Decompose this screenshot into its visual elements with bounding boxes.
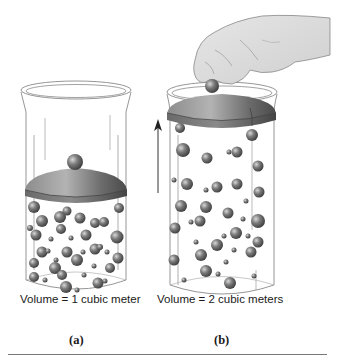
up-arrow-icon [154, 119, 162, 193]
caption-a: Volume = 1 cubic meter [20, 293, 141, 305]
molecules-a [27, 201, 124, 293]
divider-rule [8, 354, 327, 355]
hand-illustration [194, 15, 330, 93]
caption-b: Volume = 2 cubic meters [157, 293, 283, 305]
gas-volume-illustration [0, 0, 337, 359]
piston-lid-a [25, 154, 127, 203]
panel-label-a: (a) [69, 333, 84, 348]
cylinder-b [154, 15, 330, 294]
panel-label-b: (b) [214, 333, 229, 348]
cylinder-a [21, 81, 131, 293]
molecules-b [169, 123, 266, 289]
